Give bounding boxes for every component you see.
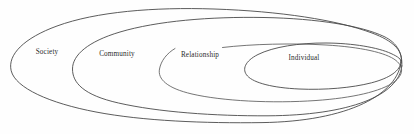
ring-individual [245,43,401,89]
ellipse-rings-svg [0,0,414,134]
ring-community-outline [73,17,402,115]
ring-label-community: Community [99,50,135,58]
ring-label-relationship: Relationship [181,51,219,59]
ring-community [73,17,402,115]
ring-individual-outline [245,43,401,89]
ring-society [11,9,402,123]
ring-society-outline [11,9,402,123]
ring-label-society: Society [36,48,59,56]
nested-ellipse-diagram: Society Community Relationship Individua… [0,0,414,134]
ring-label-individual: Individual [288,54,319,62]
